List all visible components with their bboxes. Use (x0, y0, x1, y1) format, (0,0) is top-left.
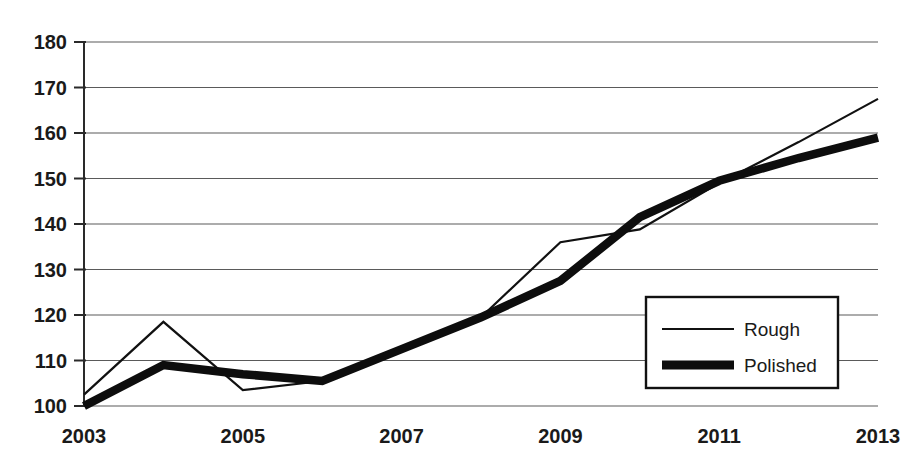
line-chart: 100110120130140150160170180 200320052007… (0, 0, 906, 475)
x-axis-tick-labels: 200320052007200920112013 (62, 425, 901, 447)
x-tick-label: 2007 (379, 425, 424, 447)
y-tick-label: 180 (34, 31, 67, 53)
legend-label-rough: Rough (744, 319, 800, 340)
x-tick-label: 2011 (698, 425, 741, 447)
y-tick-label: 130 (34, 259, 67, 281)
y-axis-tick-labels: 100110120130140150160170180 (34, 31, 67, 417)
y-tick-label: 110 (35, 350, 67, 372)
y-tick-label: 120 (34, 304, 67, 326)
x-tick-label: 2009 (538, 425, 583, 447)
y-tick-label: 170 (34, 77, 67, 99)
legend-label-polished: Polished (744, 355, 817, 376)
x-tick-label: 2013 (856, 425, 901, 447)
y-tick-label: 140 (34, 213, 67, 235)
y-tick-label: 150 (34, 168, 67, 190)
x-tick-label: 2005 (221, 425, 266, 447)
chart-plot-area: 100110120130140150160170180 200320052007… (0, 0, 906, 475)
chart-legend: Rough Polished (646, 297, 838, 388)
y-tick-label: 160 (34, 122, 67, 144)
x-tick-label: 2003 (62, 425, 107, 447)
y-tick-label: 100 (34, 395, 67, 417)
